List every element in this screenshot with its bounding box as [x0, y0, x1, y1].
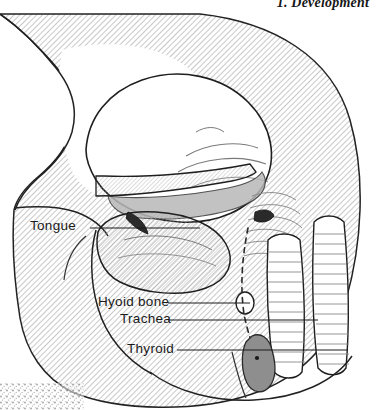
figure-page: 1. Development — [0, 0, 377, 410]
thyroid-gland — [242, 335, 274, 392]
annotation-label-trachea: Trachea — [120, 311, 171, 326]
anatomy-illustration — [0, 0, 377, 410]
annotation-label-thyroid: Thyroid — [127, 341, 174, 356]
annotation-label-tongue: Tongue — [30, 218, 76, 233]
annotation-label-hyoid-bone: Hyoid bone — [98, 294, 169, 309]
scan-edge-noise-artifact — [0, 383, 84, 410]
